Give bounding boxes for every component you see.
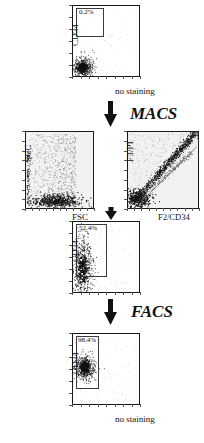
x-axis-ticks-post-facs [72,404,140,408]
y-axis-ticks-scc-fsc [22,131,26,209]
process-label-facs: FACS [131,302,173,322]
scatter-canvas-scc-fsc [25,131,94,209]
x-axis-label-pre-macs: no staining [115,86,155,96]
process-arrow-macs-icon [104,101,117,127]
panel-pre-macs: 0.2% [72,5,140,77]
x-axis-ticks-post-macs [72,292,140,296]
y-axis-label-pre-macs: CD34 [70,24,80,46]
y-axis-label-post-macs: CD34 [70,240,80,262]
scatter-canvas-f3pi [127,131,199,209]
x-axis-label-f2cd34: F2/CD34 [158,212,190,222]
panel-scc-fsc [25,131,94,209]
figure-canvas: 0.2% CD34 no staining MACS SCC FSC F3/PI… [0,0,204,443]
process-label-macs: MACS [130,104,177,124]
gate-percent-post-facs: 98.4% [78,337,96,344]
panel-post-macs: 52.4% [72,221,140,293]
y-axis-label-f3pi: F3/PI [125,141,135,162]
panel-f3pi-f2cd34 [127,131,199,209]
y-axis-label-post-facs: CD34 [70,352,80,374]
y-axis-label-scc: SCC [23,144,33,162]
process-arrow-to-post-macs-icon [105,207,117,220]
x-axis-label-post-facs: no staining [115,414,155,424]
panel-post-facs: 98.4% [72,333,140,405]
gate-percent-pre-macs: 0.2% [79,9,94,16]
gate-percent-post-macs: 52.4% [79,225,97,232]
process-arrow-facs-icon [104,299,117,325]
x-axis-ticks-pre-macs [72,76,140,80]
